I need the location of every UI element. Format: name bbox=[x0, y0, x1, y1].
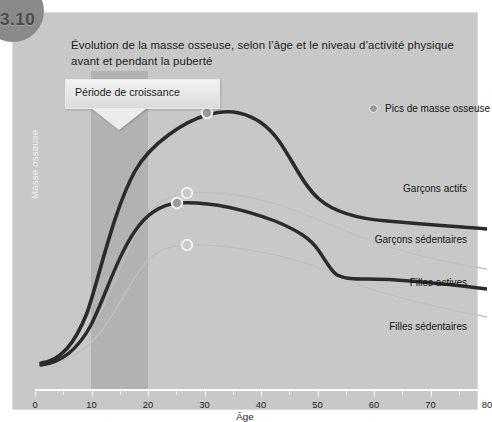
callout-arrow-icon bbox=[91, 108, 147, 130]
series-label-garcons-sedentaires: Garçons sédentaires bbox=[375, 234, 467, 245]
peak-marker-garcons-actifs bbox=[202, 108, 212, 118]
y-axis-title: Masse osseuse bbox=[29, 130, 40, 199]
curve-filles-sedentaires bbox=[41, 245, 487, 365]
x-tick-minor bbox=[176, 391, 177, 395]
x-tick-label: 50 bbox=[312, 399, 322, 410]
x-tick-major bbox=[148, 391, 149, 397]
x-tick-minor bbox=[233, 391, 234, 395]
x-tick-label: 60 bbox=[369, 399, 379, 410]
x-tick-label: 30 bbox=[199, 399, 209, 410]
x-tick-label: 40 bbox=[256, 399, 266, 410]
x-axis-title: Âge bbox=[13, 411, 477, 422]
x-tick-major bbox=[487, 391, 488, 397]
series-label-garcons-actifs: Garçons actifs bbox=[403, 183, 467, 194]
x-tick-major bbox=[431, 391, 432, 397]
chart-title: Évolution de la masse osseuse, selon l’â… bbox=[71, 37, 471, 69]
peak-marker-filles-actives bbox=[182, 188, 192, 198]
callout-label: Période de croissance bbox=[75, 86, 180, 98]
x-tick-minor bbox=[120, 391, 121, 395]
x-tick-label: 20 bbox=[143, 399, 153, 410]
series-label-filles-actives: Filles actives bbox=[410, 277, 467, 288]
growth-period-callout: Période de croissance bbox=[65, 79, 220, 109]
chart-panel: Évolution de la masse osseuse, selon l’â… bbox=[12, 12, 478, 410]
x-tick-label: 10 bbox=[86, 399, 96, 410]
figure-number-label: 3.10 bbox=[0, 10, 35, 30]
peak-marker-filles-sedentaires bbox=[182, 240, 192, 250]
x-tick-minor bbox=[402, 391, 403, 395]
x-tick-label: 80 bbox=[482, 399, 492, 410]
x-tick-minor bbox=[346, 391, 347, 395]
x-tick-major bbox=[374, 391, 375, 397]
x-tick-major bbox=[318, 391, 319, 397]
x-tick-minor bbox=[289, 391, 290, 395]
x-tick-minor bbox=[63, 391, 64, 395]
x-tick-label: 0 bbox=[32, 399, 37, 410]
peak-marker-garcons-sedentaires bbox=[172, 198, 182, 208]
x-tick-major bbox=[261, 391, 262, 397]
legend-marker-icon bbox=[369, 104, 378, 113]
x-tick-label: 70 bbox=[425, 399, 435, 410]
legend-label: Pics de masse osseuse bbox=[385, 103, 490, 114]
legend: Pics de masse osseuse bbox=[369, 103, 490, 114]
x-tick-major bbox=[205, 391, 206, 397]
x-tick-major bbox=[92, 391, 93, 397]
x-tick-major bbox=[35, 391, 36, 397]
series-label-filles-sedentaires: Filles sédentaires bbox=[389, 321, 467, 332]
x-tick-minor bbox=[459, 391, 460, 395]
